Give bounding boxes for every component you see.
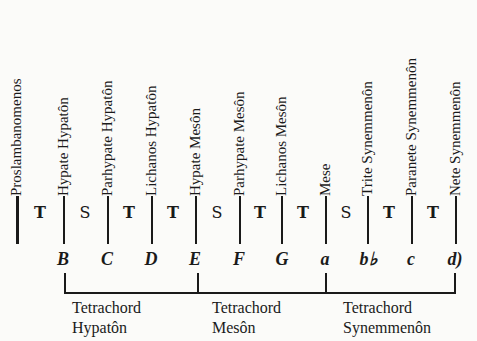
note-letter: G [276, 250, 289, 268]
bracket-tick [325, 273, 327, 292]
note-line-trite-synemmenon [367, 196, 369, 244]
tetrachord-label-line2: Hypatôn [72, 318, 141, 338]
note-name: Paranete Synemmenôn [404, 58, 419, 196]
note-line-mese [325, 196, 327, 244]
interval-label: T [427, 205, 439, 221]
note-name: Hypate Hypatôn [56, 97, 71, 196]
note-name: Nete Synemmenôn [448, 81, 463, 196]
tetrachord-label-synemmenon: Tetrachord Synemmenôn [343, 298, 431, 338]
note-line-parhypate-hypaton [107, 196, 109, 244]
note-line-lichanos-hypaton [151, 196, 153, 244]
note-letter: D [145, 250, 158, 268]
interval-label: T [34, 205, 46, 221]
note-line-paranete-synemmenon [411, 196, 413, 244]
note-letter: F [233, 250, 245, 268]
tetrachord-label-hypaton: Tetrachord Hypatôn [72, 298, 141, 338]
note-name: Parhypate Mesôn [232, 91, 247, 196]
note-name: Hypate Mesôn [188, 108, 203, 196]
interval-label: T [383, 205, 395, 221]
note-name: Proslambanomenos [9, 79, 24, 197]
note-name: Trite Synemmenôn [360, 81, 375, 196]
tetrachord-label-line2: Synemmenôn [343, 318, 431, 338]
tetrachord-label-line1: Tetrachord [343, 298, 431, 318]
note-name: Lichanos Hypatôn [144, 86, 159, 196]
interval-label: S [80, 205, 91, 221]
note-letter: B [57, 250, 69, 268]
note-name: Lichanos Mesôn [274, 96, 289, 196]
tetrachord-bracket-line [64, 292, 456, 294]
tetrachord-label-line1: Tetrachord [212, 298, 281, 318]
bracket-tick [64, 273, 66, 292]
tetrachord-label-meson: Tetrachord Mesôn [212, 298, 281, 338]
note-line-hypate-meson [195, 196, 197, 244]
note-name: Mese [318, 164, 333, 197]
note-line-lichanos-meson [281, 196, 283, 244]
tetrachord-label-line1: Tetrachord [72, 298, 141, 318]
tetrachord-label-line2: Mesôn [212, 318, 281, 338]
interval-label: T [167, 205, 179, 221]
note-line-proslambanomenos [16, 196, 19, 244]
note-name: Parhypate Hypatôn [100, 81, 115, 196]
note-letter: E [189, 250, 201, 268]
note-letter: b♭ [360, 250, 377, 268]
interval-label: T [123, 205, 135, 221]
note-line-nete-synemmenon [455, 196, 457, 244]
bracket-tick [454, 273, 456, 292]
note-line-parhypate-meson [239, 196, 241, 244]
note-letter: d) [448, 250, 463, 268]
interval-label: T [297, 205, 309, 221]
note-line-hypate-hypaton [63, 196, 65, 244]
interval-label: T [254, 205, 266, 221]
note-letter: C [101, 250, 113, 268]
note-letter: c [407, 250, 415, 268]
note-letter: a [321, 250, 330, 268]
bracket-tick [197, 273, 199, 292]
interval-label: S [212, 205, 223, 221]
interval-label: S [341, 205, 352, 221]
